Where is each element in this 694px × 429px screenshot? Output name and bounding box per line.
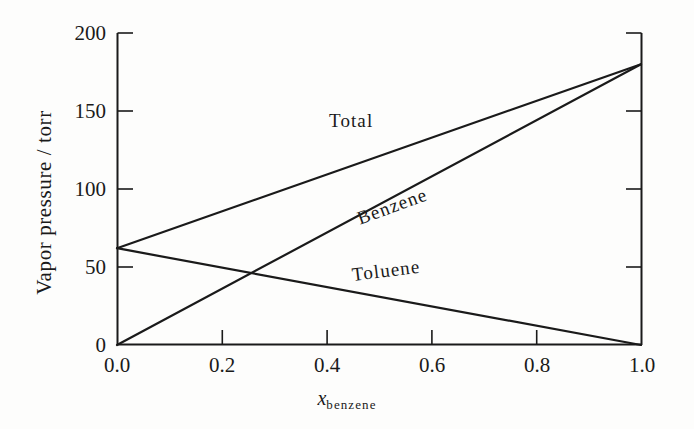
vapor-pressure-chart: 200 150 100 50 0 0.0 0.2 0.4 0.6 0.8 1.0… (0, 0, 694, 429)
x-tick-label-0.2: 0.2 (187, 355, 257, 376)
x-tick-label-0.6: 0.6 (397, 355, 467, 376)
x-axis-ticks (222, 330, 536, 345)
series-label-total: Total (329, 110, 373, 132)
x-tick-label-0.4: 0.4 (292, 355, 362, 376)
y-tick-label-0: 0 (46, 335, 106, 356)
x-axis-title: xbenzene (0, 387, 694, 413)
x-axis-title-subscript: benzene (326, 397, 376, 412)
x-tick-label-1.0: 1.0 (607, 355, 677, 376)
x-tick-label-0.0: 0.0 (82, 355, 152, 376)
y-axis-ticks (118, 33, 134, 267)
y-axis-title: Vapor pressure / torr (32, 73, 57, 333)
x-tick-label-0.8: 0.8 (502, 355, 572, 376)
y-tick-label-200: 200 (46, 23, 106, 44)
x-axis-title-symbol: x (317, 387, 326, 409)
chart-screenshot: 200 150 100 50 0 0.0 0.2 0.4 0.6 0.8 1.0… (0, 0, 694, 429)
